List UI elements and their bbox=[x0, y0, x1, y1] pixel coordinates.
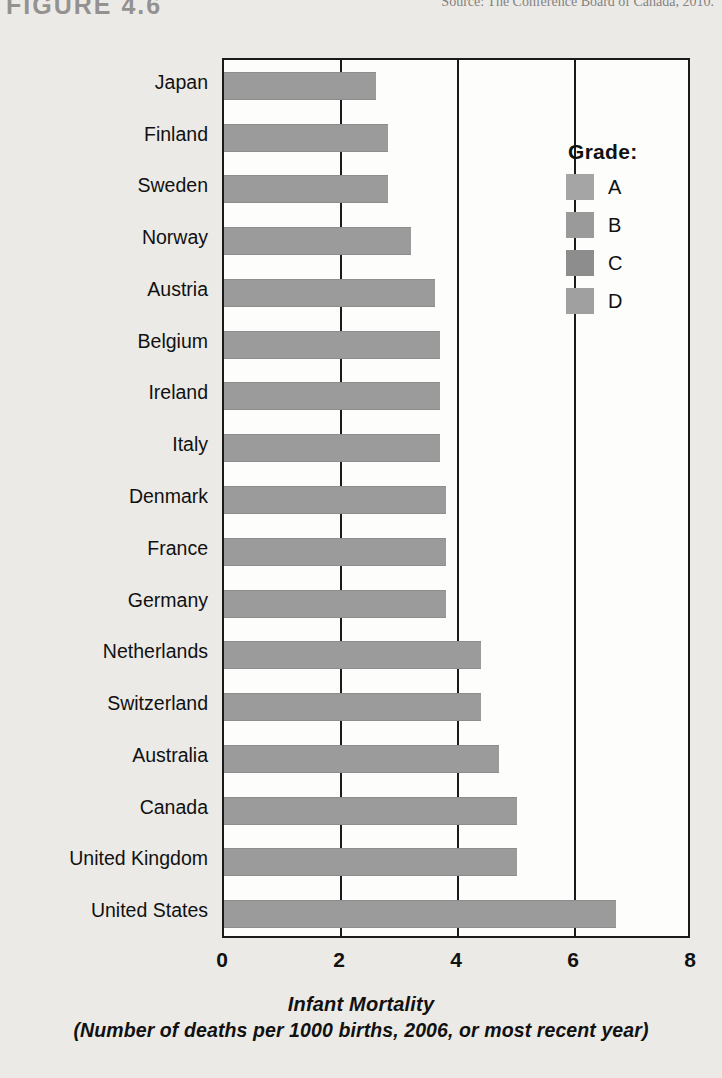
bar-row bbox=[224, 629, 688, 681]
bar bbox=[224, 72, 376, 100]
legend-item: A bbox=[566, 174, 678, 200]
category-label: Ireland bbox=[8, 381, 208, 404]
value-axis-ticks: 02468 bbox=[0, 948, 722, 978]
legend-item: D bbox=[566, 288, 678, 314]
category-label: Denmark bbox=[8, 485, 208, 508]
x-tick-label: 8 bbox=[684, 948, 696, 972]
bar-row bbox=[224, 836, 688, 888]
bar bbox=[224, 848, 517, 876]
x-tick-label: 2 bbox=[333, 948, 345, 972]
bar-row bbox=[224, 733, 688, 785]
bar bbox=[224, 434, 440, 462]
legend-label: B bbox=[608, 214, 621, 237]
x-tick-label: 6 bbox=[567, 948, 579, 972]
bar-row bbox=[224, 681, 688, 733]
category-label: Sweden bbox=[8, 174, 208, 197]
bar-row bbox=[224, 474, 688, 526]
legend-items: ABCD bbox=[566, 174, 678, 314]
bar-row bbox=[224, 785, 688, 837]
figure-source: Source: The Conference Board of Canada, … bbox=[441, 0, 714, 10]
bar bbox=[224, 797, 517, 825]
bar-row bbox=[224, 319, 688, 371]
bar-row bbox=[224, 526, 688, 578]
category-label: Netherlands bbox=[8, 640, 208, 663]
figure-number: FIGURE 4.6 bbox=[6, 0, 162, 20]
category-label: Switzerland bbox=[8, 692, 208, 715]
category-label: Norway bbox=[8, 226, 208, 249]
category-label: Finland bbox=[8, 123, 208, 146]
legend-label: D bbox=[608, 290, 622, 313]
bar bbox=[224, 486, 446, 514]
category-label: United States bbox=[8, 899, 208, 922]
bar bbox=[224, 124, 388, 152]
x-tick-label: 0 bbox=[216, 948, 228, 972]
bar bbox=[224, 331, 440, 359]
category-label: Germany bbox=[8, 589, 208, 612]
x-tick-label: 4 bbox=[450, 948, 462, 972]
legend-label: C bbox=[608, 252, 622, 275]
bar bbox=[224, 175, 388, 203]
legend-swatch bbox=[566, 288, 594, 314]
legend-swatch bbox=[566, 212, 594, 238]
category-label: Japan bbox=[8, 71, 208, 94]
bar bbox=[224, 538, 446, 566]
bar-row bbox=[224, 578, 688, 630]
bar bbox=[224, 641, 481, 669]
bar bbox=[224, 745, 499, 773]
category-label: Italy bbox=[8, 433, 208, 456]
legend-title: Grade: bbox=[568, 140, 678, 164]
category-label: Australia bbox=[8, 744, 208, 767]
legend-label: A bbox=[608, 176, 621, 199]
bar bbox=[224, 590, 446, 618]
bar bbox=[224, 227, 411, 255]
bar-row bbox=[224, 60, 688, 112]
legend-swatch bbox=[566, 174, 594, 200]
category-label: United Kingdom bbox=[8, 847, 208, 870]
bar-row bbox=[224, 371, 688, 423]
axis-title: Infant Mortality (Number of deaths per 1… bbox=[0, 993, 722, 1042]
axis-title-line2: (Number of deaths per 1000 births, 2006,… bbox=[0, 1019, 722, 1042]
bar bbox=[224, 382, 440, 410]
bar bbox=[224, 279, 435, 307]
legend: Grade: ABCD bbox=[566, 140, 678, 326]
category-label: Canada bbox=[8, 796, 208, 819]
legend-item: C bbox=[566, 250, 678, 276]
axis-title-line1: Infant Mortality bbox=[0, 993, 722, 1016]
legend-swatch bbox=[566, 250, 594, 276]
legend-item: B bbox=[566, 212, 678, 238]
bar-row bbox=[224, 888, 688, 940]
category-label: Austria bbox=[8, 278, 208, 301]
category-label: France bbox=[8, 537, 208, 560]
figure-page: FIGURE 4.6 Source: The Conference Board … bbox=[0, 0, 722, 1078]
bar-row bbox=[224, 422, 688, 474]
bar bbox=[224, 693, 481, 721]
category-label: Belgium bbox=[8, 330, 208, 353]
bar bbox=[224, 900, 616, 928]
